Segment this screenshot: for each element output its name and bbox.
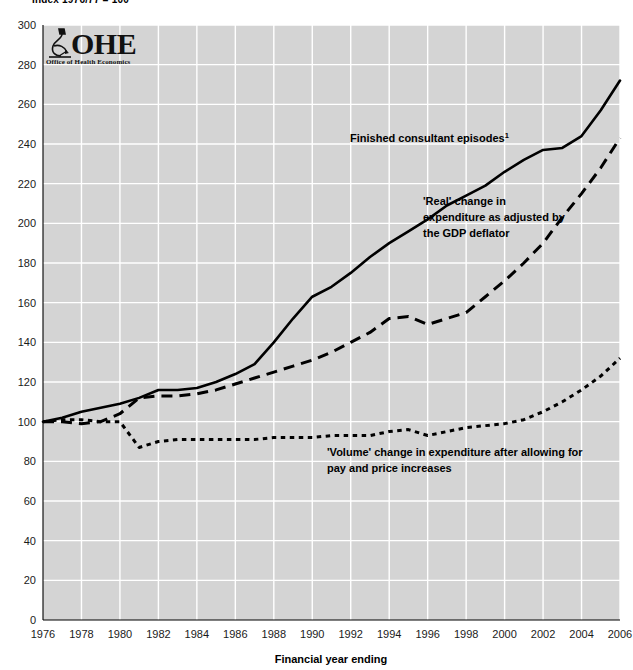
y-tick-label: 20 bbox=[24, 574, 36, 586]
x-tick-label: 1996 bbox=[415, 628, 439, 640]
ohe-logo: OHE Office of Health Economics bbox=[45, 24, 153, 66]
annot-real-line-1: 'Real' change in bbox=[423, 195, 506, 207]
x-tick-label: 1988 bbox=[262, 628, 286, 640]
ohe-logo-svg: OHE Office of Health Economics bbox=[45, 24, 153, 66]
y-axis-tick-labels: 0204060801001201401601802002202402602803… bbox=[18, 19, 36, 626]
y-tick-label: 0 bbox=[30, 614, 36, 626]
y-tick-label: 200 bbox=[18, 217, 36, 229]
x-axis-tick-labels: 1976197819801982198419861988199019921994… bbox=[31, 628, 632, 640]
x-tick-label: 2006 bbox=[608, 628, 632, 640]
x-tick-label: 2002 bbox=[531, 628, 555, 640]
annot-volume-line-2: pay and price increases bbox=[327, 462, 452, 474]
x-axis-title: Financial year ending bbox=[275, 653, 387, 665]
x-tick-label: 2000 bbox=[492, 628, 516, 640]
x-tick-label: 1986 bbox=[223, 628, 247, 640]
annot-fce: Finished consultant episodes1 bbox=[350, 131, 509, 144]
y-tick-label: 160 bbox=[18, 297, 36, 309]
y-tick-label: 60 bbox=[24, 495, 36, 507]
annot-real-line-3: the GDP deflator bbox=[423, 227, 510, 239]
x-tick-label: 1998 bbox=[454, 628, 478, 640]
annot-volume-line-1: 'Volume' change in expenditure after all… bbox=[327, 446, 583, 458]
x-tick-label: 1976 bbox=[31, 628, 55, 640]
x-tick-label: 1984 bbox=[185, 628, 209, 640]
y-tick-label: 120 bbox=[18, 376, 36, 388]
y-tick-label: 140 bbox=[18, 336, 36, 348]
ohe-wordmark: OHE bbox=[71, 27, 136, 60]
y-tick-label: 260 bbox=[18, 98, 36, 110]
microscope-icon bbox=[49, 29, 71, 57]
y-tick-label: 280 bbox=[18, 59, 36, 71]
x-tick-label: 1994 bbox=[377, 628, 401, 640]
x-tick-label: 1992 bbox=[338, 628, 362, 640]
annot-real-line-2: expenditure as adjusted by bbox=[423, 211, 566, 223]
ohe-tagline: Office of Health Economics bbox=[46, 58, 131, 66]
y-tick-label: 180 bbox=[18, 257, 36, 269]
line-chart: 0204060801001201401601802002202402602803… bbox=[0, 0, 633, 670]
x-tick-label: 1990 bbox=[300, 628, 324, 640]
y-tick-label: 80 bbox=[24, 455, 36, 467]
y-tick-label: 240 bbox=[18, 138, 36, 150]
x-tick-label: 1980 bbox=[108, 628, 132, 640]
plot-background bbox=[43, 25, 620, 620]
x-tick-label: 2004 bbox=[569, 628, 593, 640]
y-tick-label: 300 bbox=[18, 19, 36, 31]
x-tick-label: 1978 bbox=[69, 628, 93, 640]
y-tick-label: 100 bbox=[18, 416, 36, 428]
y-tick-label: 220 bbox=[18, 178, 36, 190]
x-tick-label: 1982 bbox=[146, 628, 170, 640]
chart-container: 0204060801001201401601802002202402602803… bbox=[0, 0, 633, 670]
y-tick-label: 40 bbox=[24, 535, 36, 547]
